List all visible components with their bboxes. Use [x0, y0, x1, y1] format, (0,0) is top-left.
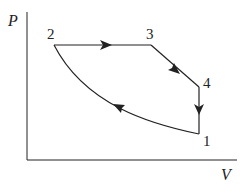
process-1-2 — [54, 45, 199, 134]
arrow-up-left-icon — [113, 104, 125, 113]
point-label-2: 2 — [47, 26, 55, 42]
point-label-3: 3 — [146, 26, 154, 42]
point-label-4: 4 — [203, 75, 211, 91]
x-axis-label: V — [221, 166, 233, 183]
pv-diagram: P V 2 3 4 1 — [0, 0, 247, 185]
y-axis-label: P — [7, 12, 18, 29]
point-label-1: 1 — [203, 133, 211, 149]
